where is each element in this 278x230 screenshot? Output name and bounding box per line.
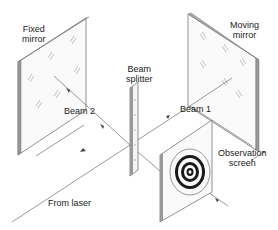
interferometer-diagram: Fixed mirror Moving mirror Beam splitter…	[0, 0, 278, 230]
label-observation-screen-line2: screen	[218, 158, 267, 168]
beam-splitter	[130, 82, 138, 176]
label-fixed-mirror: Fixed mirror	[22, 24, 46, 44]
label-beam-1: Beam 1	[180, 104, 211, 114]
label-moving-mirror: Moving mirror	[230, 20, 259, 40]
interference-fringes	[170, 149, 210, 195]
label-observation-screen: Observation screen	[218, 148, 267, 168]
label-beam-2: Beam 2	[64, 106, 95, 116]
observation-screen	[160, 120, 212, 222]
label-beam-splitter: Beam splitter	[126, 64, 153, 84]
label-beam-splitter-line1: Beam	[126, 64, 153, 74]
label-from-laser: From laser	[48, 198, 91, 208]
label-fixed-mirror-line2: mirror	[22, 34, 46, 44]
label-observation-screen-line1: Observation	[218, 148, 267, 158]
label-beam-splitter-line2: splitter	[126, 74, 153, 84]
label-fixed-mirror-line1: Fixed	[22, 24, 46, 34]
label-moving-mirror-line1: Moving	[230, 20, 259, 30]
label-moving-mirror-line2: mirror	[230, 30, 259, 40]
